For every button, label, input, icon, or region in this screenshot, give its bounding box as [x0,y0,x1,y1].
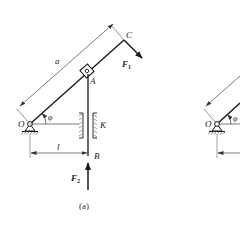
figure-caption-a: (a) [79,201,89,211]
dimension-a: a [17,24,124,124]
label-phi-b: φ [233,114,238,123]
mechanism-diagram: a A C F1 [0,0,240,225]
label-F2: F2 [70,173,80,184]
force-f1-arrow [124,40,142,58]
dimension-l: l [30,134,87,158]
angle-phi-arc [42,113,46,124]
label-C: C [126,30,133,40]
label-O: O [18,119,25,129]
label-phi: φ [48,113,53,122]
bar-oc [30,40,124,124]
label-O-b: O [205,119,212,129]
label-a: a [55,56,60,66]
label-B: B [94,151,100,161]
label-l: l [57,142,60,152]
label-K: K [99,120,107,130]
figure-b-partial: φ O [204,76,240,158]
figure-a: a A C F1 [17,24,142,211]
label-A: A [89,76,96,86]
label-F1: F1 [121,59,131,70]
